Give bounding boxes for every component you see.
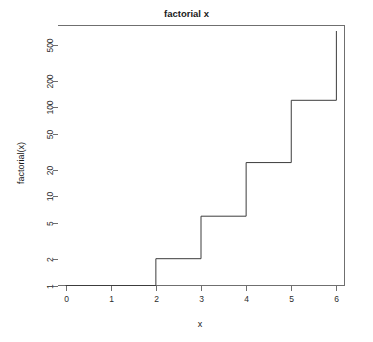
chart-title: factorial x — [164, 8, 210, 19]
x-tick-label: 4 — [244, 294, 249, 304]
x-tick-label: 3 — [199, 294, 204, 304]
y-tick-label: 500 — [45, 38, 55, 52]
y-axis-label: factorial(x) — [16, 142, 26, 184]
x-tick-label: 6 — [334, 294, 339, 304]
y-tick-label: 1 — [45, 284, 55, 289]
x-axis-label: x — [198, 319, 203, 329]
x-tick-label: 2 — [154, 294, 159, 304]
y-tick-label: 50 — [45, 130, 55, 140]
x-tick-label: 0 — [64, 294, 69, 304]
y-tick-label: 20 — [45, 166, 55, 176]
y-tick-label: 200 — [45, 74, 55, 88]
x-tick-label: 1 — [109, 294, 114, 304]
chart-container: factorial x 125102050100200500 0123456 x… — [0, 0, 373, 342]
y-tick-label: 10 — [45, 192, 55, 202]
x-tick-label: 5 — [289, 294, 294, 304]
factorial-step-chart: factorial x 125102050100200500 0123456 x… — [0, 0, 373, 342]
y-tick-label: 5 — [45, 221, 55, 226]
y-tick-label: 100 — [45, 100, 55, 114]
y-tick-label: 2 — [45, 257, 55, 262]
